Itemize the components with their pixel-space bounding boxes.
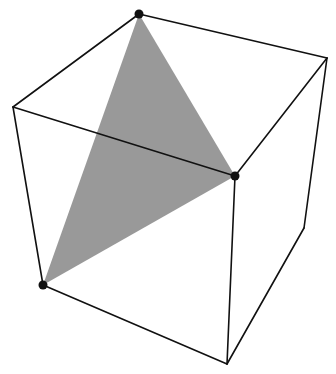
- vertex-dot-top-back-left: [135, 10, 144, 19]
- cube-diagram: [0, 0, 336, 374]
- shaded-triangle: [43, 14, 235, 285]
- cube-edge-bottom-front-left-to-bottom-front-right: [43, 285, 227, 364]
- cube-edge-bottom-front-right-to-bottom-back-right: [227, 228, 304, 364]
- shaded-triangle-layer: [43, 14, 235, 285]
- vertex-dot-bottom-front-left: [39, 281, 48, 290]
- cube-edge-top-front-right-to-bottom-front-right: [227, 176, 235, 364]
- cube-edge-top-front-left-to-bottom-front-left: [13, 107, 43, 285]
- cube-edge-top-back-left-to-top-back-right: [139, 14, 327, 58]
- vertex-dot-top-front-right: [231, 172, 240, 181]
